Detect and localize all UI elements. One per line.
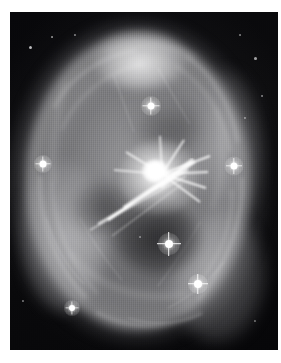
detector-scan-texture [10,12,278,350]
astronomical-image-plate [10,12,278,350]
image-page [0,0,281,363]
